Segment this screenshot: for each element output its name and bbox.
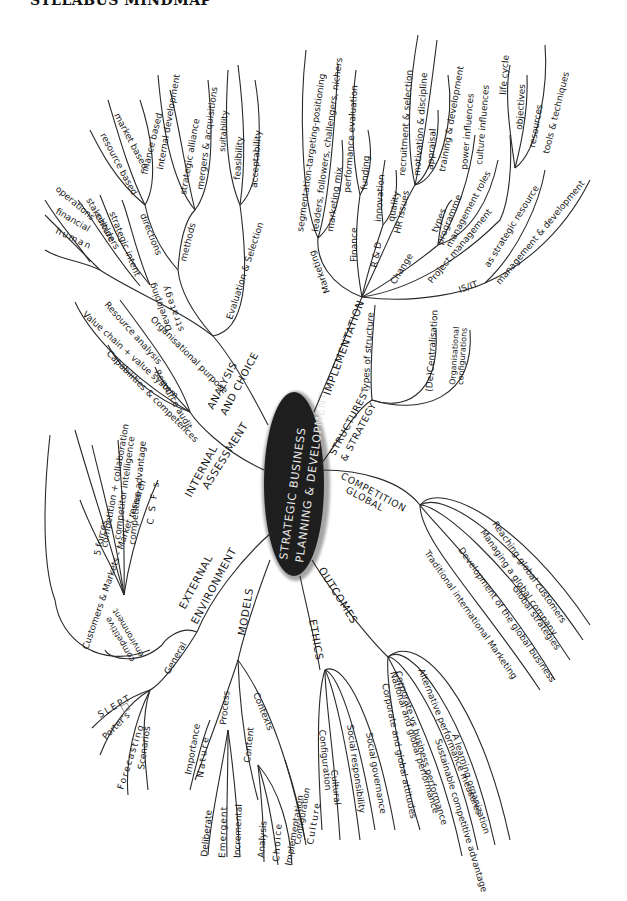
rd-item: innovation xyxy=(373,174,386,222)
center-node: STRATEGIC BUSINESS PLANNING & DEVELOPMEN… xyxy=(262,391,330,581)
mindmap-canvas: STRATEGIC BUSINESS PLANNING & DEVELOPMEN… xyxy=(0,0,627,901)
competitive-item: C S F s xyxy=(145,480,161,525)
content-item: Choice xyxy=(271,822,284,862)
change-label: Change xyxy=(388,251,415,286)
process-item: Emergent xyxy=(217,806,229,858)
project-item: life cycle xyxy=(498,54,511,95)
project-item: tools & techniques xyxy=(541,70,571,154)
methods-item: mergers & acquisitions xyxy=(195,86,219,190)
process-label: Process xyxy=(218,690,232,725)
ethics-item: Social responsibility xyxy=(345,724,367,815)
branch-implementation: IMPLEMENTATION Marketing segmentation-ta… xyxy=(295,35,590,412)
change-item: culture influences xyxy=(474,84,491,165)
directions-label: directions xyxy=(138,212,164,257)
change-item: power influences xyxy=(459,93,476,171)
process-item: Incremental xyxy=(232,804,244,858)
content-item: Analysis xyxy=(256,820,269,858)
evaluation-label: Evaluation & Selection xyxy=(224,221,265,321)
finance-label: Finance xyxy=(349,227,359,262)
general-label: General xyxy=(162,640,188,676)
branch-global: COMPETITION GLOBAL Reaching global custo… xyxy=(322,470,590,690)
project-item: objectives xyxy=(514,83,527,130)
branch-external: EXTERNAL ENVIRONMENT competitive environ… xyxy=(45,423,272,795)
ethics-label: ETHICS xyxy=(307,618,326,661)
ethics-item: Social governance xyxy=(364,732,388,816)
implementation-label: IMPLEMENTATION xyxy=(321,298,367,397)
process-item: Deliberate xyxy=(199,809,214,857)
branch-structures: STRUCTURES & STRATEGY Types of structure… xyxy=(318,305,470,468)
structure-item: (De)Centralisation xyxy=(424,309,440,392)
types-structure-label: Types of structure xyxy=(360,312,376,395)
finance-item: funding xyxy=(359,155,371,190)
isit-label: IS/IT xyxy=(457,279,479,295)
project-item: resources xyxy=(527,103,544,148)
hr-item: recruitment & selection xyxy=(397,70,414,177)
contexts-label: Contexts xyxy=(251,691,275,732)
isit-item: as strategic resource xyxy=(482,183,541,269)
global-item: Global strategies xyxy=(510,583,562,652)
evaluation-item: acceptability xyxy=(249,129,263,188)
outcomes-label: OUTCOMES xyxy=(316,565,360,626)
